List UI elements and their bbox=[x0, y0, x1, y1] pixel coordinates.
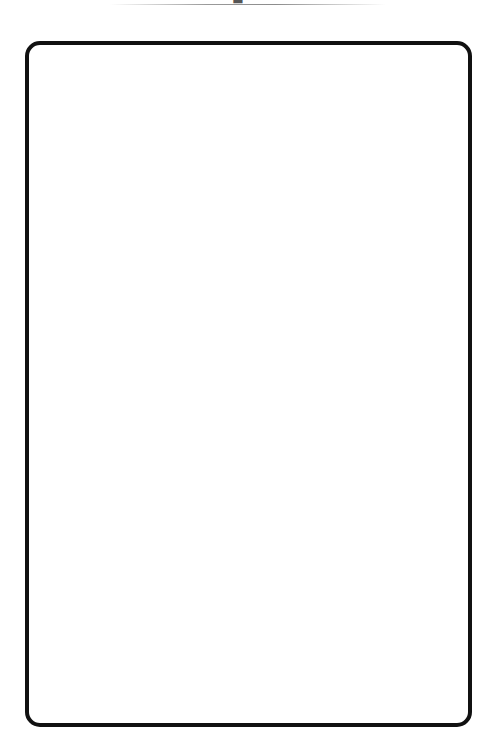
empty-rounded-frame bbox=[25, 41, 472, 727]
header-divider bbox=[110, 4, 386, 5]
